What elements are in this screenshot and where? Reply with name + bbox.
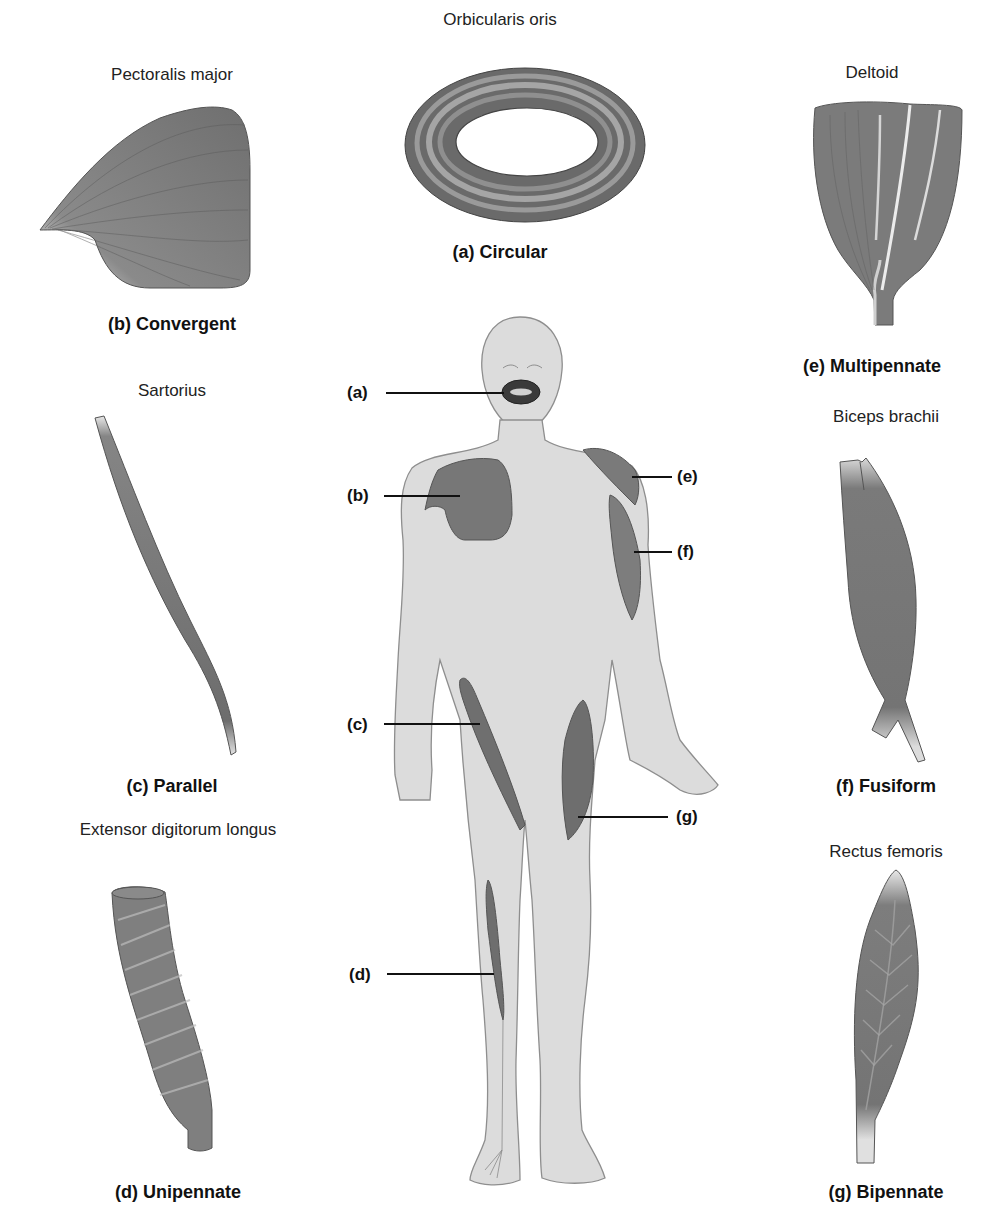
callout-line-c <box>384 723 480 725</box>
callout-line-b <box>384 495 460 497</box>
callout-line-g <box>578 816 668 818</box>
callout-line-d <box>387 973 494 975</box>
muscle-name-orbicularis-oris: Orbicularis oris <box>443 10 556 30</box>
callout-label-b: (b) <box>347 486 369 506</box>
muscle-name-extensor-digitorum-longus: Extensor digitorum longus <box>80 820 277 840</box>
type-label-convergent: (b) Convergent <box>108 314 236 335</box>
callout-label-c: (c) <box>347 715 368 735</box>
callout-line-e <box>632 476 672 478</box>
type-label-parallel: (c) Parallel <box>126 776 217 797</box>
muscle-name-sartorius: Sartorius <box>138 381 206 401</box>
muscle-name-biceps-brachii: Biceps brachii <box>833 407 939 427</box>
callout-label-a: (a) <box>347 383 368 403</box>
callout-line-a <box>386 392 504 394</box>
muscle-name-deltoid: Deltoid <box>846 63 899 83</box>
type-label-unipennate: (d) Unipennate <box>115 1182 241 1203</box>
callout-label-e: (e) <box>677 467 698 487</box>
muscle-name-rectus-femoris: Rectus femoris <box>829 842 942 862</box>
type-label-multipennate: (e) Multipennate <box>803 356 941 377</box>
human-body-figure <box>0 0 1 1</box>
type-label-circular: (a) Circular <box>452 242 547 263</box>
callout-label-g: (g) <box>676 807 698 827</box>
callout-line-f <box>634 551 672 553</box>
muscle-name-pectoralis-major: Pectoralis major <box>111 65 233 85</box>
type-label-fusiform: (f) Fusiform <box>836 776 936 797</box>
callout-label-f: (f) <box>677 542 694 562</box>
type-label-bipennate: (g) Bipennate <box>829 1182 944 1203</box>
callout-label-d: (d) <box>349 965 371 985</box>
